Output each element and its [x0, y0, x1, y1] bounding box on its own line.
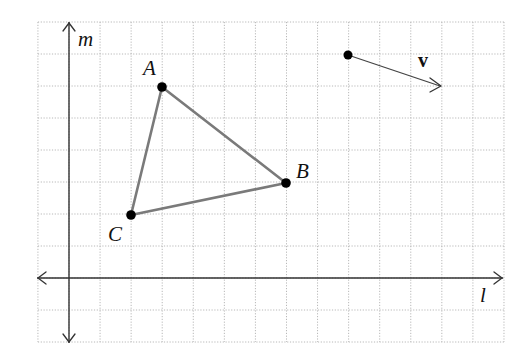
label-point-a: A	[141, 56, 156, 80]
grid	[38, 22, 504, 342]
label-vector-v: v	[418, 49, 428, 71]
axis-label-l: l	[480, 283, 486, 307]
l-axis	[37, 272, 503, 284]
vector-tail-point	[344, 51, 353, 60]
point-a	[157, 82, 167, 92]
point-c	[126, 210, 136, 220]
point-b	[281, 178, 291, 188]
triangle-abc	[126, 82, 291, 220]
axis-label-m: m	[78, 27, 93, 51]
label-point-c: C	[108, 222, 123, 246]
edge-bc	[131, 183, 286, 215]
label-point-b: B	[296, 159, 309, 183]
m-axis	[63, 22, 75, 343]
edge-ca	[131, 87, 162, 215]
coordinate-diagram: m l A B C v	[0, 0, 524, 357]
